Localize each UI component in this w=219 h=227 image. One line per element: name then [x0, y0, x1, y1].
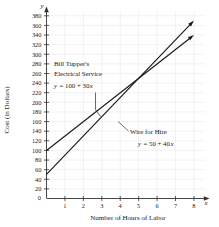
origin-tick-label: 0: [38, 194, 41, 201]
annotation-bill-tupper-line2: Electrical Service: [54, 70, 102, 77]
x-axis-title: Number of Hours of Labor: [90, 214, 166, 222]
y-axis-tick-label: 240: [32, 79, 42, 86]
y-axis-tick-label: 80: [35, 156, 41, 163]
y-axis-tick-label: 140: [32, 127, 42, 134]
x-axis-tick-label: 2: [82, 202, 85, 209]
y-axis-tick-label: 340: [32, 31, 42, 38]
annotation-bill-tupper-equation: y= 100 + 30x: [53, 82, 93, 89]
y-axis-tick-label: 160: [32, 118, 42, 125]
y-axis-tick-label: 200: [32, 99, 42, 106]
y-axis-tick-label: 260: [32, 70, 42, 77]
chart-container: 2040608010012014016018020022024026028030…: [0, 0, 219, 227]
y-axis-tick-label: 380: [32, 12, 42, 19]
y-axis-tick-label: 100: [32, 147, 42, 154]
y-axis-tick-label: 220: [32, 89, 42, 96]
y-axis-tick-label: 320: [32, 41, 42, 48]
y-axis-tick-label: 40: [35, 176, 41, 183]
x-axis-tick-label: 8: [192, 202, 195, 209]
y-axis-tick-label: 120: [32, 137, 42, 144]
y-axis-tick-label: 280: [32, 60, 42, 67]
x-axis-tick-label: 3: [100, 202, 103, 209]
x-axis-tick-label: 6: [155, 202, 158, 209]
x-axis-tick-label: 1: [63, 202, 66, 209]
y-axis-tick-label: 20: [35, 185, 41, 192]
y-axis-tick-label: 360: [32, 22, 42, 29]
y-axis-tick-label: 180: [32, 108, 42, 115]
line-chart: 2040608010012014016018020022024026028030…: [0, 0, 219, 227]
y-axis-tick-label: 300: [32, 51, 42, 58]
x-axis-tick-label: 5: [137, 202, 140, 209]
y-axis-title: Cost (in Dollars): [3, 86, 11, 134]
annotation-bill-tupper-line1: Bill Tupper's: [54, 60, 89, 67]
annotation-wire-for-hire-line1: Wire for Hire: [130, 128, 167, 135]
y-axis-tick-label: 60: [35, 166, 41, 173]
